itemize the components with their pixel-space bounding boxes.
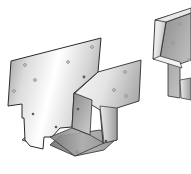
bracket-center-fold bbox=[72, 93, 92, 135]
product-image: Product illustration of galvanized steel… bbox=[0, 0, 191, 174]
main-bracket bbox=[8, 38, 141, 156]
brackets-illustration bbox=[0, 0, 191, 174]
secondary-lower-panel bbox=[180, 78, 191, 100]
secondary-bracket bbox=[153, 8, 191, 100]
